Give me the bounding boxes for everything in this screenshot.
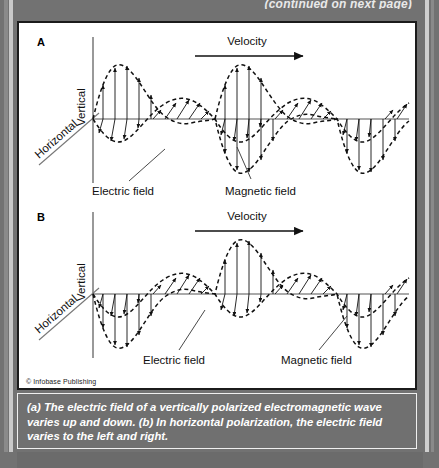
panel-a-electric-field-label: Electric field: [92, 185, 154, 197]
page-background: (continued on next page) A Velocity: [0, 0, 439, 468]
continued-on-next-page-note: (continued on next page): [0, 0, 412, 9]
panel-b-velocity-label: Velocity: [227, 210, 267, 222]
panel-a-horizontal-axis-label: Horizontal: [32, 117, 79, 160]
figure-panel-inner: A Velocity Vertical Horizontal: [19, 23, 415, 388]
panel-a-velocity-label: Velocity: [227, 35, 267, 47]
panel-b-magnetic-leader: [319, 316, 347, 350]
panel-b-electric-field-wave: [93, 273, 409, 317]
publisher-credit: © Infobase Publishing: [26, 378, 96, 385]
page-bottom-bar: [17, 452, 423, 468]
panel-b-magnetic-field-label: Magnetic field: [281, 354, 352, 366]
panel-a-letter: A: [37, 36, 45, 48]
panel-b-vertical-axis-label: Vertical: [75, 263, 87, 301]
panel-b-diagram: B Velocity Vertical Horizontal: [19, 198, 415, 378]
panel-a-magnetic-field-label: Magnetic field: [225, 185, 296, 197]
panel-a-vertical-axis-label: Vertical: [75, 88, 87, 126]
figure-caption-text: (a) The electric field of a vertically p…: [27, 400, 406, 444]
panel-b-electric-curve: [93, 273, 409, 317]
figure-caption: (a) The electric field of a vertically p…: [17, 393, 417, 449]
page-gutter-right: [425, 0, 429, 452]
page-gutter-shadow-left: [4, 0, 8, 452]
panel-a-diagram: A Velocity Vertical Horizontal: [19, 23, 415, 203]
panel-b-electric-leader: [179, 310, 205, 350]
panel-a-magnetic-field-wave: [93, 98, 409, 142]
panel-b-horizontal-axis-label: Horizontal: [32, 292, 79, 335]
figure-panel: A Velocity Vertical Horizontal: [17, 21, 417, 390]
page-gutter-shadow-right: [431, 0, 434, 452]
panel-b-letter: B: [37, 211, 45, 223]
panel-a-magnetic-curve: [93, 98, 409, 142]
page-gutter-left: [9, 0, 13, 452]
panel-b-electric-field-label: Electric field: [143, 354, 205, 366]
panel-a-electric-leader: [129, 149, 165, 181]
